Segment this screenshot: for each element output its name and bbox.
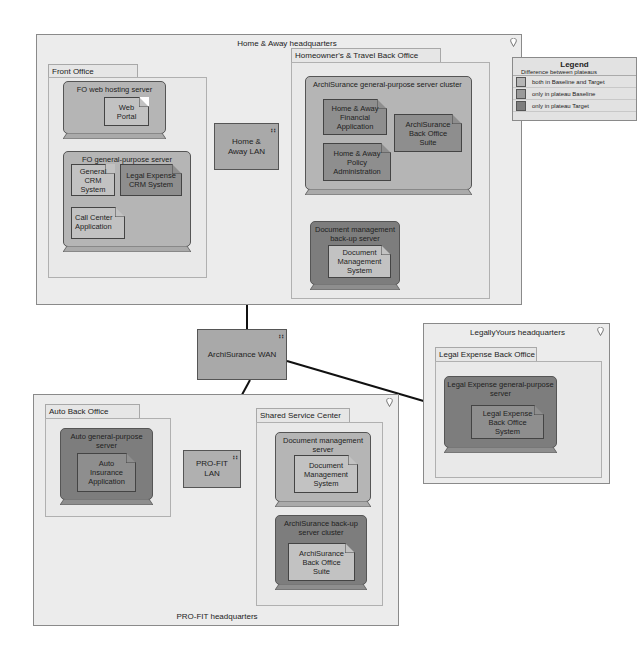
node-base-icon — [444, 447, 557, 453]
group-tab-auto-back-office[interactable]: Auto Back Office — [45, 404, 140, 418]
legend: Legend Difference between plateaus both … — [512, 57, 637, 121]
document-fold-icon — [345, 543, 355, 553]
legend-subtitle: Difference between plateaus — [513, 69, 636, 76]
document-fold-icon — [172, 164, 182, 174]
group-tab-front-office[interactable]: Front Office — [48, 64, 138, 77]
node-base-icon — [305, 189, 472, 195]
artifact-label: Web Portal — [113, 103, 141, 121]
node-legal-expense-gp-server[interactable]: Legal Expense general-purpose server Leg… — [444, 376, 557, 448]
node-title: Auto general-purpose server — [61, 429, 152, 450]
document-fold-icon — [377, 99, 387, 109]
node-doc-mgmt-backup-server[interactable]: Document management back-up server Docum… — [310, 221, 400, 285]
legend-label: both in Baseline and Target — [532, 79, 605, 85]
node-title: ArchiSurance back-up server cluster — [276, 516, 366, 537]
document-fold-icon — [348, 455, 358, 465]
network-archisurance-wan[interactable]: ∷ ArchiSurance WAN — [197, 329, 287, 380]
location-title: PRO-FIT headquarters — [34, 612, 400, 621]
artifact-archisurance-bos-2[interactable]: ArchiSurance Back Office Suite — [288, 543, 355, 581]
document-fold-icon — [115, 207, 125, 217]
artifact-legal-expense-bos[interactable]: Legal Expense Back Office System — [471, 405, 544, 439]
node-title: Document management back-up server — [311, 222, 399, 243]
location-title: Home & Away headquarters — [187, 39, 387, 48]
node-title: ArchiSurance general-purpose server clus… — [306, 77, 471, 89]
document-fold-icon — [139, 97, 149, 107]
artifact-label: ArchiSurance Back Office Suite — [297, 549, 347, 576]
artifact-dms-2[interactable]: Document Management System — [294, 455, 358, 493]
group-label: Auto Back Office — [49, 407, 108, 416]
node-title: Document management server — [276, 433, 370, 454]
node-base-icon — [63, 246, 191, 252]
document-fold-icon — [105, 164, 115, 174]
legend-swatch — [516, 77, 526, 87]
network-label: PRO-FIT LAN — [195, 459, 229, 479]
document-fold-icon — [452, 114, 462, 124]
artifact-label: Auto Insurance Application — [83, 459, 131, 486]
node-title: FO general-purpose server — [64, 152, 190, 164]
group-label: Shared Service Center — [260, 411, 341, 420]
legend-swatch — [516, 101, 526, 111]
location-pin-icon — [597, 327, 604, 336]
node-base-icon — [60, 499, 153, 505]
network-label: Home & Away LAN — [227, 137, 267, 157]
legend-swatch — [516, 89, 526, 99]
network-home-away-lan[interactable]: ∷ Home & Away LAN — [214, 123, 279, 170]
node-fo-general-purpose-server[interactable]: FO general-purpose server General CRM Sy… — [63, 151, 191, 247]
node-title: FO web hosting server — [64, 82, 165, 94]
artifact-dms-1[interactable]: Document Management System — [328, 245, 391, 278]
group-label: Front Office — [52, 67, 94, 76]
legend-title: Legend — [513, 58, 636, 69]
artifact-label: Call Center Application — [75, 213, 115, 231]
artifact-web-portal[interactable]: Web Portal — [104, 97, 149, 126]
group-tab-legal-expense-back-office[interactable]: Legal Expense Back Office — [435, 347, 537, 361]
network-icon: ∷ — [233, 453, 237, 463]
node-base-icon — [275, 501, 371, 507]
artifact-label: Document Management System — [300, 461, 352, 488]
artifact-auto-insurance[interactable]: Auto Insurance Application — [77, 453, 136, 492]
artifact-call-center[interactable]: Call Center Application — [71, 207, 125, 239]
document-fold-icon — [381, 245, 391, 255]
artifact-label: Home & Away Financial Application — [329, 104, 381, 131]
location-title: LegallyYours headquarters — [424, 328, 611, 337]
artifact-label: Legal Expense Back Office System — [480, 409, 536, 436]
location-pin-icon — [510, 38, 517, 47]
network-icon: ∷ — [271, 126, 275, 136]
node-base-icon — [63, 133, 166, 139]
node-auto-gp-server[interactable]: Auto general-purpose server Auto Insuran… — [60, 428, 153, 500]
document-fold-icon — [381, 143, 391, 153]
document-fold-icon — [534, 405, 544, 415]
document-fold-icon — [126, 453, 136, 463]
artifact-label: Document Management System — [334, 248, 386, 275]
network-label: ArchiSurance WAN — [208, 350, 277, 360]
artifact-legal-expense-crm[interactable]: Legal Expense CRM System — [120, 164, 182, 196]
location-pin-icon — [386, 398, 393, 407]
artifact-ha-policy[interactable]: Home & Away Policy Administration — [323, 143, 391, 181]
legend-item-baseline: only in plateau Baseline — [513, 88, 636, 100]
artifact-label: ArchiSurance Back Office Suite — [403, 120, 453, 147]
network-pro-fit-lan[interactable]: ∷ PRO-FIT LAN — [183, 450, 241, 488]
legend-item-both: both in Baseline and Target — [513, 76, 636, 88]
artifact-general-crm[interactable]: General CRM System — [71, 164, 115, 196]
artifact-label: Home & Away Policy Administration — [329, 149, 385, 176]
artifact-archisurance-bos-1[interactable]: ArchiSurance Back Office Suite — [394, 114, 462, 152]
node-fo-web-hosting-server[interactable]: FO web hosting server Web Portal — [63, 81, 166, 134]
node-title: Legal Expense general-purpose server — [445, 377, 556, 398]
group-label: Homeowner's & Travel Back Office — [295, 51, 418, 60]
group-tab-homeowners-travel-back-office[interactable]: Homeowner's & Travel Back Office — [291, 48, 441, 62]
node-archisurance-gp-cluster[interactable]: ArchiSurance general-purpose server clus… — [305, 76, 472, 190]
network-icon: ∷ — [279, 332, 283, 342]
artifact-ha-financial[interactable]: Home & Away Financial Application — [323, 99, 387, 135]
legend-label: only in plateau Baseline — [532, 91, 595, 97]
node-doc-mgmt-server[interactable]: Document management server Document Mana… — [275, 432, 371, 502]
node-base-icon — [275, 584, 367, 590]
node-base-icon — [310, 284, 400, 290]
legend-item-target: only in plateau Target — [513, 100, 636, 112]
group-label: Legal Expense Back Office — [439, 350, 535, 359]
node-archisurance-backup-cluster[interactable]: ArchiSurance back-up server cluster Arch… — [275, 515, 367, 585]
legend-label: only in plateau Target — [532, 103, 589, 109]
group-tab-shared-service-center[interactable]: Shared Service Center — [256, 408, 350, 422]
artifact-label: Legal Expense CRM System — [126, 171, 176, 189]
